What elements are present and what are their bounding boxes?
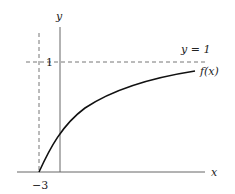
function-diagram: y x 1 −3 y = 1 f(x)	[0, 0, 235, 194]
curve-f	[39, 71, 195, 172]
y-axis-label: y	[55, 10, 63, 23]
y-tick-1: 1	[46, 56, 53, 69]
x-tick-minus3: −3	[32, 179, 48, 192]
x-axis-label: x	[211, 166, 218, 179]
curve-label: f(x)	[199, 65, 219, 78]
asymptote-label: y = 1	[180, 43, 210, 56]
